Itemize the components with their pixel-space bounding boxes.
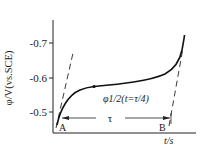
y-axis-label: φ/V(vs.SCE) xyxy=(3,50,15,105)
y-tick-label: -0.6 xyxy=(30,72,48,84)
arrowhead-left-icon xyxy=(62,116,69,120)
arrowhead-right-icon xyxy=(163,116,170,120)
y-tick-label: -0.7 xyxy=(30,37,48,49)
tau-label: τ xyxy=(108,112,113,124)
chronopotentiogram-diagram: -0.7 -0.6 -0.5 φ/V(vs.SCE) t/s φ1/2(t=τ/… xyxy=(0,0,207,152)
y-tick-label: -0.5 xyxy=(30,106,48,118)
point-a-label: A xyxy=(59,122,67,133)
potential-curve xyxy=(57,35,185,125)
point-b-label: B xyxy=(159,122,166,133)
quarter-wave-label: φ1/2(t=τ/4) xyxy=(103,93,150,105)
quarter-wave-point xyxy=(92,85,95,88)
x-axis-label: t/s xyxy=(164,135,174,146)
